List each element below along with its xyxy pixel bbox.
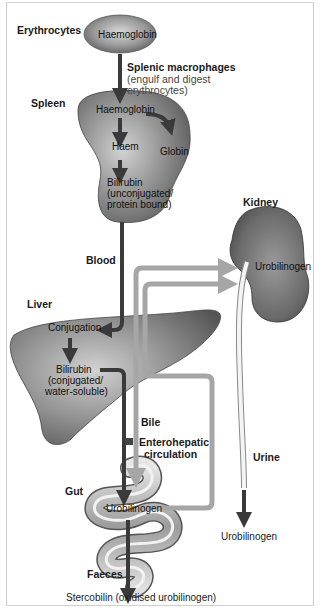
label-haemoglobin-spleen: Haemoglobin bbox=[96, 104, 155, 116]
label-splenic-note-2: erythrocytes) bbox=[127, 84, 188, 96]
label-urine: Urine bbox=[253, 451, 280, 463]
label-kidney: Kidney bbox=[243, 196, 278, 208]
label-urobilinogen-urine: Urobilinogen bbox=[221, 531, 277, 543]
label-erythrocytes: Erythrocytes bbox=[17, 24, 81, 36]
label-urobilinogen-kidney: Urobilinogen bbox=[255, 261, 311, 273]
label-blood: Blood bbox=[86, 254, 116, 266]
bile-duct-marker bbox=[125, 438, 133, 445]
label-gut: Gut bbox=[65, 485, 83, 497]
label-urobilinogen-gut: Urobilinogen bbox=[106, 503, 162, 515]
label-enterohepatic-2: circulation bbox=[144, 448, 197, 460]
label-bilirubin-conj-3: water-soluble) bbox=[45, 386, 108, 398]
label-enterohepatic-1: Enterohepatic bbox=[139, 436, 209, 448]
label-conjugation: Conjugation bbox=[48, 322, 101, 334]
label-globin: Globin bbox=[160, 146, 189, 158]
label-haem: Haem bbox=[112, 141, 139, 153]
label-spleen: Spleen bbox=[31, 97, 65, 109]
label-faeces: Faeces bbox=[87, 568, 123, 580]
label-haemoglobin-rbc: Haemoglobin bbox=[98, 29, 157, 41]
label-liver: Liver bbox=[27, 298, 52, 310]
label-splenic-macrophages: Splenic macrophages bbox=[127, 61, 236, 73]
label-bilirubin-unconj-3: protein bound) bbox=[107, 199, 172, 211]
label-bile: Bile bbox=[141, 416, 160, 428]
label-stercobilin: Stercobilin (oxidised urobilinogen) bbox=[66, 592, 216, 604]
